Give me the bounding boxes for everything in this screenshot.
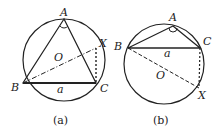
label-b: B [113, 40, 122, 53]
figure-a: A X O B C a (a) [10, 6, 109, 127]
label-x: X [197, 89, 207, 102]
label-b: B [10, 81, 19, 94]
label-o: O [54, 51, 63, 64]
label-side-a: a [57, 83, 64, 96]
triangle-abc-b [128, 26, 200, 48]
caption-b: (b) [153, 114, 169, 127]
circumcircle-b [124, 24, 204, 104]
caption-a: (a) [53, 114, 68, 127]
label-o: O [156, 69, 165, 82]
label-x: X [98, 37, 108, 50]
geometry-figure: A X O B C a (a) A B C a O X (b) [0, 0, 221, 133]
label-c: C [100, 82, 109, 95]
circumcircle-a [23, 19, 105, 101]
label-a-vertex: A [59, 6, 68, 19]
label-side-a: a [164, 47, 171, 60]
figure-b: A B C a O X (b) [113, 11, 212, 127]
label-c: C [203, 35, 212, 48]
label-a-vertex: A [168, 11, 177, 24]
angle-a-mark-a [60, 26, 68, 28]
